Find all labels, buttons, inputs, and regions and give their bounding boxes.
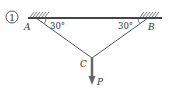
figure-number: 1 xyxy=(9,13,15,23)
hatch-support-b xyxy=(140,12,159,17)
load-arrow-icon xyxy=(89,76,96,85)
label-b: B xyxy=(147,22,155,32)
label-a: A xyxy=(23,22,31,32)
truss-diagram: 1 A B C P 30° 30° xyxy=(0,0,172,91)
label-c: C xyxy=(80,59,87,69)
label-p: P xyxy=(96,77,104,87)
angle-label-b: 30° xyxy=(118,21,133,31)
angle-label-a: 30° xyxy=(50,21,65,31)
hatch-support-a xyxy=(30,12,49,17)
